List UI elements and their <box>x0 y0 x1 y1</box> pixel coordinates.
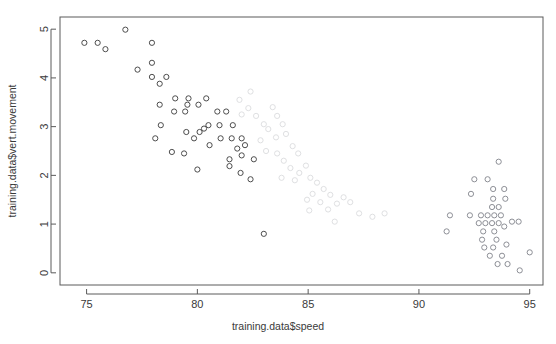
x-axis-title: training.data$speed <box>232 320 324 332</box>
y-tick-label: 1 <box>38 221 50 227</box>
x-tick-label: 75 <box>80 298 92 310</box>
x-tick-label: 90 <box>413 298 425 310</box>
y-tick-label: 2 <box>38 172 50 178</box>
y-axis-title: training.data$vert.movement <box>6 84 18 217</box>
x-tick-label: 80 <box>191 298 203 310</box>
r-scatter-plot-figure: 7580859095 012345 training.data$speed tr… <box>0 0 556 344</box>
x-tick-label: 95 <box>524 298 536 310</box>
plot-background <box>0 0 556 344</box>
y-tick-label: 4 <box>38 75 50 81</box>
y-tick-label: 0 <box>38 270 50 276</box>
x-tick-label: 85 <box>302 298 314 310</box>
y-tick-label: 3 <box>38 124 50 130</box>
y-tick-label: 5 <box>38 26 50 32</box>
scatter-plot-canvas: 7580859095 012345 training.data$speed tr… <box>0 0 556 344</box>
